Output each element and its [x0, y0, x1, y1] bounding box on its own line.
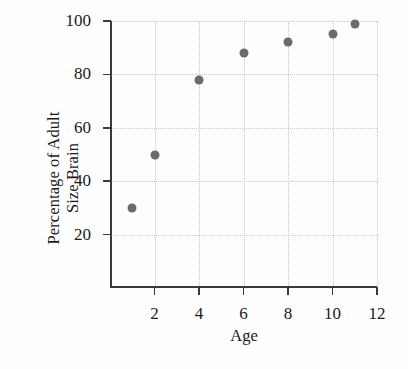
x-axis-tick-label: 2	[150, 304, 159, 324]
data-point	[328, 30, 337, 39]
gridline-vertical	[333, 21, 334, 288]
x-axis-tick-label: 8	[284, 304, 293, 324]
x-axis-title: Age	[110, 326, 378, 346]
y-axis-tick: 80	[103, 74, 111, 76]
y-axis-line	[110, 21, 112, 288]
y-axis-tick: 100	[103, 20, 111, 22]
x-axis-tick-label: 10	[324, 304, 341, 324]
gridline-vertical	[288, 21, 289, 288]
x-axis-tick: 4	[198, 287, 200, 295]
y-axis-tick-label: 60	[74, 118, 91, 138]
x-axis-tick: 2	[154, 287, 156, 295]
data-point	[150, 150, 159, 159]
data-point	[350, 19, 359, 28]
y-axis-tick: 20	[103, 234, 111, 236]
data-point	[284, 38, 293, 47]
plot-area: 20406080100 24681012	[110, 21, 377, 288]
y-axis-tick-label: 40	[74, 171, 91, 191]
y-axis-tick: 60	[103, 127, 111, 129]
x-axis-tick: 10	[332, 287, 334, 295]
y-axis-tick-label: 80	[74, 64, 91, 84]
data-point	[128, 203, 137, 212]
x-axis-tick: 6	[243, 287, 245, 295]
gridline-vertical	[244, 21, 245, 288]
data-point	[195, 75, 204, 84]
y-axis-tick-label: 100	[66, 11, 92, 31]
x-axis-tick: 12	[376, 287, 378, 295]
y-axis-tick-label: 20	[74, 225, 91, 245]
x-axis-tick-label: 6	[239, 304, 248, 324]
x-axis-tick: 8	[287, 287, 289, 295]
y-axis-title-line-1: Percentage of Adult	[44, 112, 63, 245]
gridline-vertical	[377, 21, 378, 288]
scatter-chart-figure: Percentage of Adult Size Brain Age 20406…	[0, 0, 408, 369]
gridline-vertical	[199, 21, 200, 288]
y-axis-tick: 40	[103, 180, 111, 182]
data-point	[239, 49, 248, 58]
x-axis-tick-label: 4	[195, 304, 204, 324]
x-axis-tick-label: 12	[368, 304, 385, 324]
